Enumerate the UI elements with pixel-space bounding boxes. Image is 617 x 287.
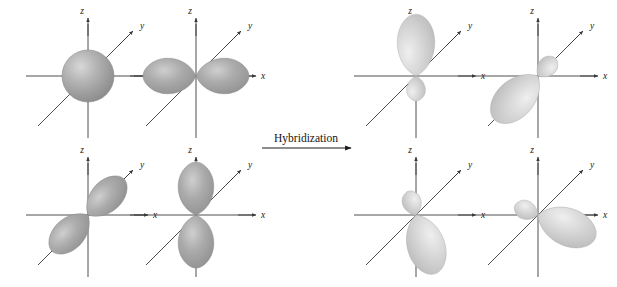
y-axis-label: y [139,160,145,170]
z-axis-label: z [407,145,412,155]
y-axis-label: y [589,160,595,170]
z-axis-label: z [187,145,192,155]
y-axis-label: y [589,21,595,31]
x-axis-label: x [602,210,608,220]
z-axis-label: z [79,6,84,16]
y-axis-label: y [247,21,253,31]
z-axis-label: z [79,145,84,155]
x-axis-label: x [260,71,266,81]
y-axis-label: y [247,160,253,170]
y-axis-label: y [467,160,473,170]
z-axis-label: z [407,6,412,16]
x-axis-label: x [602,71,608,81]
z-axis-label: z [529,6,534,16]
y-axis-label: y [139,21,145,31]
z-axis-label: z [187,6,192,16]
y-axis-label: y [467,21,473,31]
orbital-hybridization-figure: z y x z y x z y x z y x Hybridization [0,0,617,287]
x-axis-label: x [260,210,266,220]
s-orbital-sphere [62,50,114,102]
z-axis-label: z [529,145,534,155]
hybridization-label: Hybridization [274,132,338,145]
